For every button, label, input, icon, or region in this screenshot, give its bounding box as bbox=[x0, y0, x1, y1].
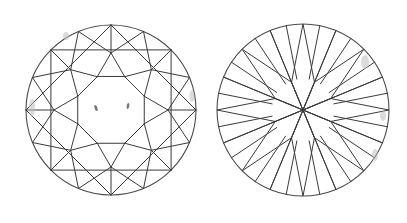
star-facet-edge bbox=[97, 53, 111, 77]
star-facet-edge bbox=[125, 143, 152, 150]
diamond-facet-figure: Crown Pavilion Diamond facet plot diagra… bbox=[0, 0, 407, 223]
pavilion-main-facet bbox=[217, 99, 303, 122]
pavilion-main-facet bbox=[303, 99, 389, 122]
smudge-upper-right bbox=[361, 55, 369, 69]
star-facet-edge bbox=[71, 70, 78, 97]
inclusion-crystal-left bbox=[94, 105, 99, 112]
star-facet-edge bbox=[71, 124, 78, 151]
smudge-lower-right bbox=[372, 149, 378, 161]
lower-girdle-halving-line bbox=[309, 26, 320, 79]
pavilion-main-facet bbox=[242, 110, 303, 171]
smudge-left-edge bbox=[29, 99, 35, 117]
lower-girdle-halving-line bbox=[286, 141, 297, 194]
star-facet-edge bbox=[54, 110, 78, 124]
bezel-spine bbox=[151, 50, 171, 70]
smudge-upper-left bbox=[63, 32, 69, 40]
star-facet-edge bbox=[71, 143, 98, 150]
pavilion-main-facet bbox=[242, 49, 303, 110]
star-facet-edge bbox=[111, 143, 125, 167]
star-facet-edge bbox=[97, 143, 111, 167]
star-facet-edge bbox=[71, 70, 98, 77]
lower-girdle-halving-line bbox=[334, 116, 387, 127]
pavilion-main-facet bbox=[303, 49, 364, 110]
star-facet-edge bbox=[144, 70, 151, 97]
crown-view-diagram bbox=[26, 25, 196, 195]
star-facet-edge bbox=[144, 110, 168, 124]
pavilion-main-facet bbox=[292, 110, 315, 196]
smudge-right-edge bbox=[190, 90, 195, 102]
star-facet-edge bbox=[111, 53, 125, 77]
star-facet-edge bbox=[144, 96, 168, 110]
bezel-spine bbox=[51, 50, 71, 70]
bezel-spine bbox=[51, 150, 71, 170]
star-facet-edge bbox=[144, 124, 151, 151]
pavilion-view-diagram bbox=[217, 24, 389, 196]
facet-diagram-canvas bbox=[0, 0, 407, 223]
lower-girdle-halving-line bbox=[286, 26, 297, 79]
lower-girdle-halving-line bbox=[219, 116, 272, 127]
lower-girdle-halving-line bbox=[309, 141, 320, 194]
star-facet-edge bbox=[54, 96, 78, 110]
lower-girdle-halving-line bbox=[334, 93, 387, 104]
pavilion-main-facet bbox=[292, 24, 315, 110]
smudge-right bbox=[380, 111, 386, 121]
table-octagon bbox=[78, 77, 145, 144]
lower-girdle-halving-line bbox=[219, 93, 272, 104]
star-facet-edge bbox=[125, 70, 152, 77]
bezel-spine bbox=[151, 150, 171, 170]
pavilion-main-facet bbox=[303, 110, 364, 171]
inclusion-crystal-right bbox=[126, 103, 130, 109]
